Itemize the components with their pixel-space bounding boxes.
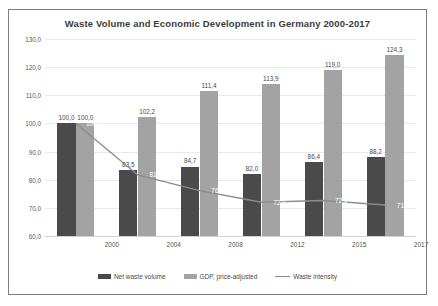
legend-item[interactable]: GDP, price-adjusted <box>184 273 258 280</box>
line-value-label: 72,0 <box>262 199 296 206</box>
legend-label: Waste intensity <box>293 273 337 280</box>
line-value-label: 81,7 <box>139 171 173 178</box>
y-axis-tick-label: 110,0 <box>26 92 41 99</box>
x-axis-tick-label: 2012 <box>274 241 320 248</box>
y-axis-tick-label: 100,0 <box>25 120 41 127</box>
x-axis-tick-label: 2000 <box>89 241 135 248</box>
line-value-label: 100,0 <box>77 120 111 127</box>
legend-swatch-icon <box>184 274 197 279</box>
plot-area: 60,070,080,090,0100,0110,0120,0130,0 100… <box>45 39 416 236</box>
line-value-label: 71,0 <box>386 202 420 209</box>
legend-swatch-icon <box>98 274 111 279</box>
legend-swatch-icon <box>275 276 290 277</box>
x-axis-tick-label: 2017 <box>398 241 438 248</box>
legend-item[interactable]: Waste intensity <box>275 273 337 280</box>
y-axis-tick-label: 120,0 <box>25 64 41 71</box>
chart-container: Waste Volume and Economic Development in… <box>8 9 427 295</box>
y-axis-tick-label: 90,0 <box>29 148 41 155</box>
chart-title: Waste Volume and Economic Development in… <box>9 18 426 29</box>
legend-item[interactable]: Net waste volume <box>98 273 166 280</box>
line-value-label: 72,6 <box>324 197 358 204</box>
line-value-label: 76,1 <box>201 187 235 194</box>
plot-inner: 60,070,080,090,0100,0110,0120,0130,0 100… <box>45 39 416 236</box>
x-axis-tick-label: 2015 <box>336 241 382 248</box>
chart-legend: Net waste volumeGDP, price-adjustedWaste… <box>9 273 426 280</box>
y-axis-tick-label: 130,0 <box>25 36 41 43</box>
x-axis-labels: 200020042008201220152017 <box>81 241 406 253</box>
waste-intensity-line <box>45 39 416 236</box>
x-axis-tick-label: 2004 <box>151 241 197 248</box>
x-axis-tick-label: 2008 <box>213 241 259 248</box>
y-axis-tick-label: 70,0 <box>29 204 41 211</box>
y-axis-tick-label: 80,0 <box>29 176 41 183</box>
legend-label: GDP, price-adjusted <box>200 273 258 280</box>
y-axis-tick-label: 60,0 <box>29 233 41 240</box>
gridline <box>45 236 416 237</box>
legend-label: Net waste volume <box>114 273 166 280</box>
